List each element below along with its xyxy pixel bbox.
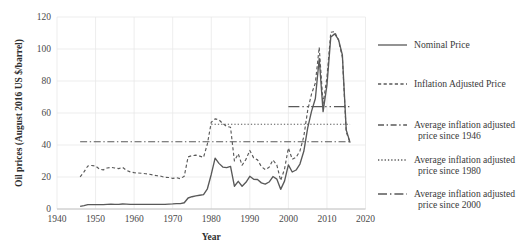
legend-item-label: Inflation Adjusted Price [414,78,506,89]
y-tick-label: 0 [46,204,51,214]
y-tick-label: 120 [37,12,52,22]
x-tick-label: 1950 [86,214,105,224]
legend-item-label: Average inflation adjusted [414,154,515,165]
x-tick-label: 1940 [48,214,67,224]
y-tick-label: 40 [42,140,52,150]
x-tick-label: 2000 [279,214,298,224]
legend-item-label: Average inflation adjusted [414,119,515,130]
y-tick-label: 60 [42,108,52,118]
x-tick-label: 1990 [240,214,259,224]
chart-svg: 020406080100120 194019501960197019801990… [0,0,531,252]
x-tick-label: 2020 [356,214,375,224]
y-axis-title: Oil prices (August 2016 US $/barrel) [14,39,25,187]
legend-item-label: Nominal Price [414,39,470,50]
x-tick-label: 2010 [317,214,336,224]
y-tick-label: 100 [37,44,52,54]
x-tick-label: 1980 [202,214,221,224]
x-axis-title: Year [202,232,222,242]
x-axis-tick-labels: 194019501960197019801990200020102020 [48,214,376,224]
legend-item-label: price since 2000 [418,199,481,210]
legend-item-label: Average inflation adjusted [414,188,515,199]
x-tick-label: 1960 [125,214,144,224]
legend-item-label: price since 1946 [418,130,481,141]
y-tick-label: 20 [42,172,52,182]
y-tick-label: 80 [42,76,52,86]
legend-item-label: price since 1980 [418,165,481,176]
oil-price-chart: 020406080100120 194019501960197019801990… [0,0,531,252]
x-tick-label: 1970 [163,214,182,224]
